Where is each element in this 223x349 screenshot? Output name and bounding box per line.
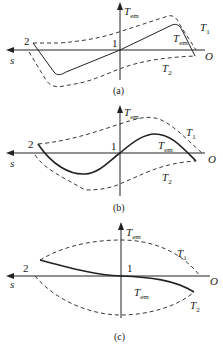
- origin-label-a: O: [205, 50, 213, 62]
- t2-label-a: T2: [162, 62, 172, 77]
- t1-curve-c: [40, 240, 200, 276]
- s-label-b: s: [10, 157, 14, 169]
- point-1-label-b: 1: [111, 140, 117, 152]
- tem-label-b: Tem: [158, 139, 173, 154]
- tem-label-a: Tem: [173, 32, 188, 47]
- t1-label-b: T1: [186, 126, 196, 141]
- point-2-label-a: 2: [24, 35, 30, 47]
- panel-c: Tem s O 2 1 T1 T2 Tem (c): [10, 226, 218, 343]
- tem-axis-label-a: Tem: [124, 5, 139, 20]
- point-2-label-c: 2: [23, 262, 29, 274]
- t2-curve-b: [35, 155, 196, 190]
- tem-axis-label-c: Tem: [126, 226, 141, 241]
- caption-a: (a): [113, 85, 124, 97]
- t1-label-a: T1: [200, 21, 210, 36]
- panel-b: Tem s O 2 1 T1 T2 Tem (b): [10, 106, 216, 214]
- s-label-a: s: [10, 54, 14, 66]
- figure-canvas: Tem s O 2 1 T1 T2 Tem (a) Tem s O 2 1 T1…: [0, 0, 223, 349]
- tem-curve-b: [38, 134, 196, 174]
- origin-label-b: O: [208, 153, 216, 165]
- tem-label-c: Tem: [134, 286, 149, 301]
- t1-label-c: T1: [177, 247, 187, 262]
- t2-label-b: T2: [162, 171, 172, 186]
- caption-b: (b): [113, 202, 125, 214]
- origin-label-c: O: [210, 275, 218, 287]
- point-2-label-b: 2: [28, 138, 34, 150]
- s-label-c: s: [10, 278, 14, 290]
- tem-axis-label-b: Tem: [124, 106, 139, 121]
- point-1-label-c: 1: [127, 262, 133, 274]
- t2-label-c: T2: [190, 299, 200, 314]
- caption-c: (c): [114, 331, 125, 343]
- panel-a: Tem s O 2 1 T1 T2 Tem (a): [10, 5, 213, 97]
- point-1-label-a: 1: [112, 37, 118, 49]
